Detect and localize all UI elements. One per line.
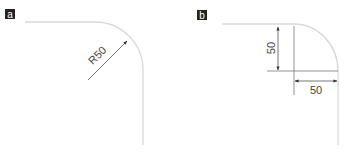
panel-b-label: b bbox=[199, 10, 205, 21]
panel-a: a R50 bbox=[5, 9, 143, 146]
panel-a-label: a bbox=[7, 9, 13, 20]
panel-b: b 50 50 bbox=[197, 10, 338, 146]
vertical-dimension-label: 50 bbox=[265, 42, 277, 54]
horizontal-dimension-label: 50 bbox=[310, 84, 322, 96]
diagram-canvas: a R50 b 50 50 bbox=[0, 0, 344, 153]
rounded-corner-curve-a bbox=[25, 22, 143, 145]
